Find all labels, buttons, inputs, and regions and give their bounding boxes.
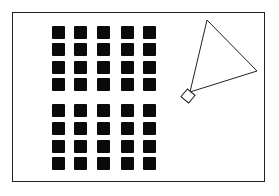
triangle-shape [190,20,257,92]
triangle-figure [0,0,279,196]
